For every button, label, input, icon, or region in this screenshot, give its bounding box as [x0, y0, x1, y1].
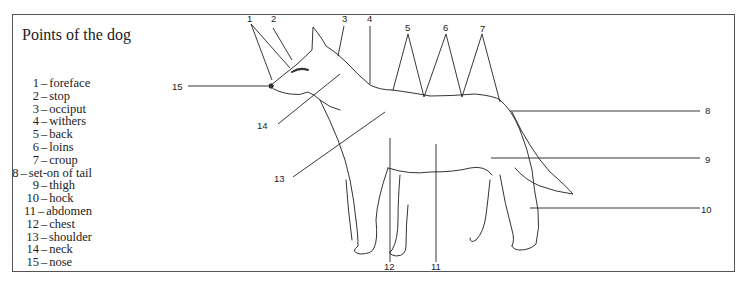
callout-4: 4: [367, 13, 372, 24]
callout-13: 13: [274, 173, 285, 184]
callout-labels: 1 2 3 4 5 6 7 8 9 10 11 12 13 14 15: [172, 13, 712, 272]
callout-5: 5: [405, 22, 410, 33]
callout-6: 6: [443, 22, 448, 33]
leader-lines: [188, 24, 700, 262]
callout-14: 14: [257, 120, 268, 131]
callout-15: 15: [172, 81, 183, 92]
callout-8: 8: [705, 105, 710, 116]
dog-outline: [269, 27, 573, 256]
callout-10: 10: [701, 204, 712, 215]
callout-12: 12: [384, 261, 395, 272]
callout-1: 1: [247, 13, 252, 24]
callout-3: 3: [342, 13, 347, 24]
callout-11: 11: [431, 261, 441, 272]
dog-illustration: 1 2 3 4 5 6 7 8 9 10 11 12 13 14 15: [0, 0, 743, 291]
callout-9: 9: [705, 154, 710, 165]
callout-2: 2: [271, 13, 276, 24]
callout-7: 7: [480, 23, 485, 34]
